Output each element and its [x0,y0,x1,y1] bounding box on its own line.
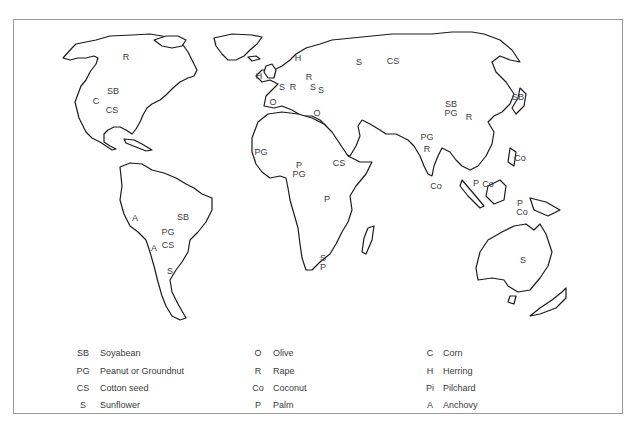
caribbean-islands [124,139,152,151]
map-label: CS [387,57,400,66]
map-label: H [256,72,263,81]
legend-label: Coconut [273,383,307,393]
map-label: CS [333,159,346,168]
map-label: S [167,267,173,276]
map-label: P [473,179,479,188]
legend-code: O [247,348,269,358]
map-label: SB [107,87,119,96]
legend-code: PG [72,366,94,376]
legend-code: P [247,400,269,410]
map-label: H [295,54,302,63]
map-label: S [310,83,316,92]
legend-label: Rape [273,366,295,376]
new-zealand-landmass [530,288,566,316]
map-label: P [320,263,326,272]
map-label: PG [254,148,267,157]
map-label: CS [162,241,175,250]
legend-label: Anchovy [443,400,478,410]
legend-label: Pilchard [443,383,476,393]
legend-code: CS [72,383,94,393]
map-label: A [151,244,157,253]
map-label: PG [292,170,305,179]
legend-label: Soyabean [100,348,141,358]
map-label: PG [444,109,457,118]
legend-code: S [72,400,94,410]
north-america-landmass [63,34,197,150]
legend-code: H [419,366,441,376]
legend-code: R [247,366,269,376]
map-label: R [290,83,297,92]
map-label: O [269,98,276,107]
legend-code: Co [247,383,269,393]
map-label: Co [482,180,494,189]
map-label: Co [516,208,528,217]
legend-code: A [419,400,441,410]
world-map-outline [0,0,637,422]
map-label: A [132,214,138,223]
legend-label: Palm [273,400,294,410]
map-label: P [324,195,330,204]
iceland-landmass [248,56,260,61]
map-label: S [520,256,526,265]
australia-landmass [476,224,552,292]
legend-label: Herring [443,366,473,376]
legend-code: SB [72,348,94,358]
map-label: SB [177,213,189,222]
legend-label: Cotton seed [100,383,149,393]
legend-label: Peanut or Groundnut [100,366,184,376]
new-guinea-landmass [530,198,560,216]
map-label: CS [106,106,119,115]
map-label: R [466,113,473,122]
map-label: R [123,53,130,62]
map-label: O [313,109,320,118]
map-label: S [318,86,324,95]
map-label: PG [420,133,433,142]
map-label: R [306,73,313,82]
map-label: Co [514,154,526,163]
legend-code: Pi [419,383,441,393]
map-label: Co [430,182,442,191]
legend-code: C [419,348,441,358]
map-label: S [356,58,362,67]
legend-label: Olive [273,348,294,358]
map-label: PG [161,228,174,237]
madagascar-landmass [362,226,374,254]
map-label: R [424,145,431,154]
map-label: S [279,83,285,92]
tasmania-landmass [508,296,516,304]
map-label: C [93,97,100,106]
map-label: SB [512,93,524,102]
legend-label: Sunflower [100,400,140,410]
legend-label: Corn [443,348,463,358]
